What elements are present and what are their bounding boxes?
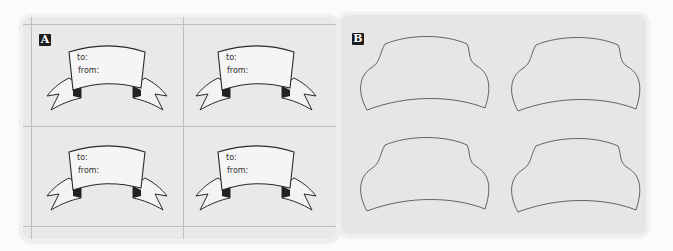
tag-outline-1 xyxy=(361,37,489,111)
to-label: to: xyxy=(77,153,88,162)
from-label: from: xyxy=(227,66,248,75)
banner-tag-2: to: from: xyxy=(196,46,316,110)
to-label: to: xyxy=(226,153,237,162)
from-label: from: xyxy=(78,66,99,75)
banner-tag-3: to: from: xyxy=(47,146,167,210)
to-label: to: xyxy=(77,53,88,62)
from-label: from: xyxy=(78,166,99,175)
illustrations: to: from: to: from: to: from: to: from: xyxy=(0,0,673,251)
from-label: from: xyxy=(227,166,248,175)
tag-outline-4 xyxy=(512,139,640,213)
tag-outline-3 xyxy=(361,138,489,212)
banner-tag-4: to: from: xyxy=(196,146,316,210)
to-label: to: xyxy=(226,53,237,62)
banner-tag-1: to: from: xyxy=(47,46,167,110)
tag-outline-2 xyxy=(512,38,640,112)
